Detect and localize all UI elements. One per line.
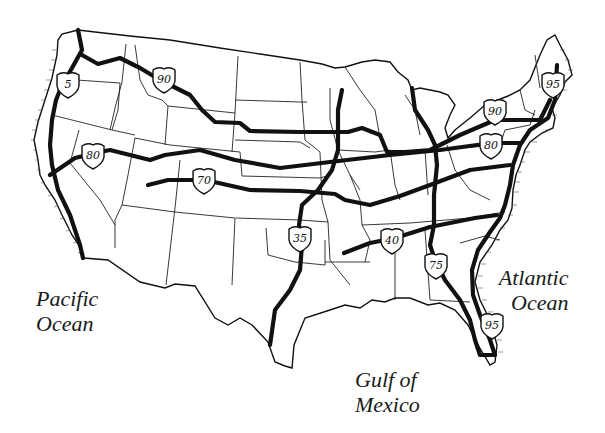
us-interstate-map: 590908080703540759595 xyxy=(0,0,605,433)
shield-number: 95 xyxy=(485,319,499,332)
pacific-label-line1: Pacific xyxy=(36,286,98,311)
shield-number: 5 xyxy=(65,78,72,91)
shield-number: 70 xyxy=(197,174,211,187)
pacific-label-line2: Ocean xyxy=(36,311,98,336)
shield-number: 35 xyxy=(293,232,307,245)
interstate-shield-icon: 95 xyxy=(481,314,503,339)
interstate-shield-icon: 80 xyxy=(82,144,104,169)
interstate-shield-icon: 90 xyxy=(153,68,175,93)
interstate-shield-icon: 40 xyxy=(381,229,403,254)
shield-number: 80 xyxy=(86,149,100,162)
interstate-shield-icon: 80 xyxy=(480,134,502,159)
atlantic-ocean-label: Atlantic Ocean xyxy=(497,265,568,315)
atlantic-label-line1: Atlantic xyxy=(497,265,568,290)
gulf-of-mexico-label: Gulf of Mexico xyxy=(355,367,420,417)
gulf-label-line1: Gulf of xyxy=(355,367,420,392)
shield-number: 40 xyxy=(384,234,399,247)
highway-shields: 590908080703540759595 xyxy=(57,68,564,339)
interstate-shield-icon: 35 xyxy=(289,227,311,252)
highway-i35 xyxy=(270,90,342,345)
gulf-label-line2: Mexico xyxy=(355,392,420,417)
shield-number: 90 xyxy=(157,73,171,86)
highway-i80 xyxy=(50,143,520,175)
interstate-shield-icon: 70 xyxy=(193,169,215,194)
atlantic-label-line2: Ocean xyxy=(497,290,568,315)
shield-number: 75 xyxy=(429,259,443,272)
highways xyxy=(50,30,557,355)
shield-number: 90 xyxy=(488,105,502,118)
pacific-ocean-label: Pacific Ocean xyxy=(36,286,98,336)
shield-number: 80 xyxy=(484,139,498,152)
shield-number: 95 xyxy=(546,78,560,91)
